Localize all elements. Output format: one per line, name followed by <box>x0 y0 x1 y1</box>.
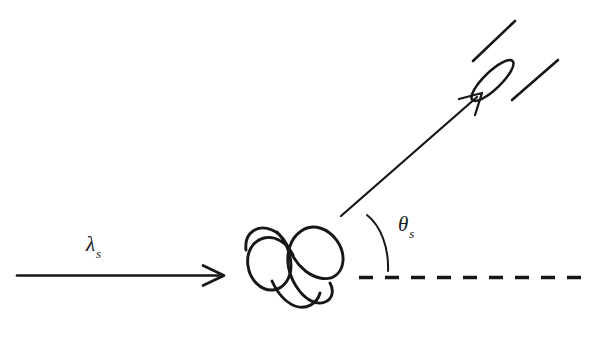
detector-wall-upper <box>473 21 515 61</box>
detector-wall-lower <box>512 60 558 100</box>
light-scattering-diagram: λs θs <box>0 0 592 338</box>
scattered-beam-arrow <box>341 93 482 216</box>
lambda-subscript: s <box>96 246 101 261</box>
incident-beam-arrow <box>17 266 224 286</box>
theta-subscript: s <box>409 226 414 241</box>
scattering-angle-label: θs <box>398 212 413 239</box>
incident-wavelength-label: λs <box>86 232 100 259</box>
lambda-symbol: λ <box>86 232 95 256</box>
polymer-coil <box>246 227 343 307</box>
theta-symbol: θ <box>398 212 408 236</box>
diagram-canvas <box>0 0 592 338</box>
scattering-angle-arc <box>367 215 388 271</box>
